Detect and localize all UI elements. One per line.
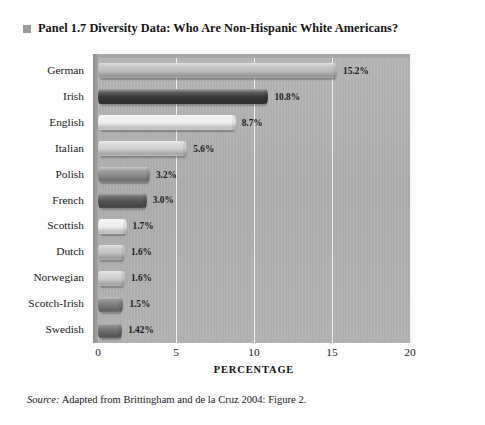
- bar-row: 3.2%: [98, 162, 410, 188]
- chart-plot-wrap: 15.2%10.8%8.7%5.6%3.2%3.0%1.7%1.6%1.6%1.…: [98, 58, 410, 343]
- bar-italian: [98, 141, 185, 156]
- x-axis-tick-labels: 05101520: [98, 346, 410, 362]
- category-label-irish: Irish: [63, 84, 84, 110]
- square-bullet-icon: [23, 25, 31, 33]
- bar-value-label: 5.6%: [193, 144, 214, 154]
- bar-row: 1.5%: [98, 291, 410, 317]
- bar-value-label: 3.0%: [153, 195, 174, 205]
- category-label-english: English: [49, 110, 84, 136]
- category-label-french: French: [52, 188, 84, 214]
- bar-scotch-irish: [98, 297, 121, 312]
- bar-english: [98, 115, 234, 130]
- bar-value-label: 1.6%: [131, 273, 152, 283]
- gridline-20: [410, 58, 411, 343]
- panel-title-row: Panel 1.7 Diversity Data: Who Are Non-Hi…: [23, 21, 398, 36]
- bar-row: 5.6%: [98, 136, 410, 162]
- x-tick-10: 10: [248, 346, 259, 358]
- bar-row: 1.7%: [98, 213, 410, 239]
- category-label-italian: Italian: [55, 136, 84, 162]
- bar-series: 15.2%10.8%8.7%5.6%3.2%3.0%1.7%1.6%1.6%1.…: [98, 58, 410, 343]
- category-label-dutch: Dutch: [56, 239, 84, 265]
- page-title: Panel 1.7 Diversity Data: Who Are Non-Hi…: [38, 21, 398, 36]
- category-label-scotch-irish: Scotch-Irish: [28, 291, 84, 317]
- bar-value-label: 8.7%: [242, 118, 263, 128]
- bar-row: 3.0%: [98, 188, 410, 214]
- bar-row: 1.42%: [98, 317, 410, 343]
- category-label-polish: Polish: [56, 162, 85, 188]
- bar-irish: [98, 89, 266, 104]
- category-label-scottish: Scottish: [47, 213, 84, 239]
- x-tick-15: 15: [326, 346, 337, 358]
- category-label-swedish: Swedish: [45, 317, 84, 343]
- bar-german: [98, 63, 335, 78]
- bar-french: [98, 193, 145, 208]
- bar-norwegian: [98, 271, 123, 286]
- source-label: Source:: [27, 394, 60, 405]
- chart-plot-area: 15.2%10.8%8.7%5.6%3.2%3.0%1.7%1.6%1.6%1.…: [98, 58, 410, 343]
- bar-value-label: 3.2%: [156, 170, 177, 180]
- panel-figure: Panel 1.7 Diversity Data: Who Are Non-Hi…: [0, 0, 485, 425]
- bar-value-label: 1.6%: [131, 247, 152, 257]
- bar-value-label: 1.7%: [133, 221, 154, 231]
- bar-row: 15.2%: [98, 58, 410, 84]
- x-tick-20: 20: [404, 346, 415, 358]
- category-label-german: German: [47, 58, 84, 84]
- bar-row: 8.7%: [98, 110, 410, 136]
- bar-value-label: 1.42%: [128, 325, 154, 335]
- x-tick-0: 0: [95, 346, 101, 358]
- bar-value-label: 10.8%: [274, 92, 300, 102]
- category-label-norwegian: Norwegian: [33, 265, 84, 291]
- bar-row: 1.6%: [98, 239, 410, 265]
- bar-dutch: [98, 245, 123, 260]
- source-text: Adapted from Brittingham and de la Cruz …: [60, 394, 307, 405]
- source-note: Source: Adapted from Brittingham and de …: [27, 394, 306, 405]
- x-axis-title: PERCENTAGE: [98, 364, 410, 375]
- bar-value-label: 15.2%: [343, 66, 369, 76]
- bar-polish: [98, 167, 148, 182]
- bar-scottish: [98, 219, 125, 234]
- x-tick-5: 5: [173, 346, 179, 358]
- category-axis-labels: GermanIrishEnglishItalianPolishFrenchSco…: [0, 58, 92, 343]
- bar-row: 1.6%: [98, 265, 410, 291]
- bar-value-label: 1.5%: [129, 299, 150, 309]
- bar-swedish: [98, 323, 120, 338]
- bar-row: 10.8%: [98, 84, 410, 110]
